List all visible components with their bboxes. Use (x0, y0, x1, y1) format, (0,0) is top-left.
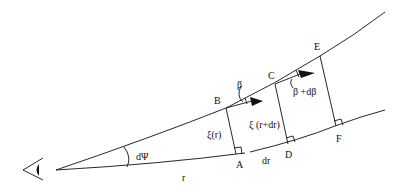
label-beta: β (237, 79, 242, 90)
label-point-B: B (214, 95, 221, 106)
lower-ray-curve-right (250, 110, 385, 152)
angle-dpsi-arc (124, 147, 129, 167)
label-dpsi: dΨ (136, 151, 149, 162)
label-point-E: E (314, 41, 320, 52)
segment-EF (320, 56, 336, 126)
label-xi-r-dr: ξ (r+dr) (249, 119, 280, 131)
label-point-A: A (236, 159, 244, 170)
upper-ray-curve (56, 12, 385, 170)
eye-icon (23, 158, 43, 180)
direction-arrow-B (226, 86, 263, 108)
segment-BA (226, 108, 236, 154)
label-point-D: D (285, 149, 292, 160)
segment-CD (275, 84, 288, 144)
label-xi-r: ξ(r) (207, 129, 221, 141)
lower-ray-curve-left (56, 153, 245, 170)
label-beta-dbeta: β +dβ (293, 86, 316, 97)
label-dr: dr (262, 155, 271, 166)
label-point-C: C (268, 70, 275, 81)
label-point-F: F (336, 133, 342, 144)
ray-diagram: B C E A D F β β +dβ ξ(r) ξ (r+dr) dΨ r d… (0, 0, 406, 188)
label-r: r (182, 172, 186, 183)
